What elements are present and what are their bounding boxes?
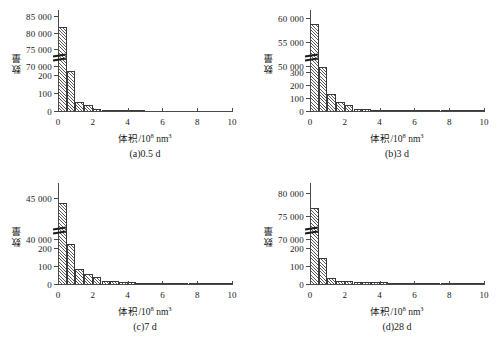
histogram-bar	[58, 203, 67, 285]
x-tick-label-b-4: 8	[447, 117, 452, 127]
y-tick-label-a-up-2-mark	[54, 33, 58, 34]
plot-area-b: 0246810010020030050 00055 00060 000	[310, 14, 484, 112]
y-tick-label-c-lo-0: 0	[47, 280, 52, 290]
x-axis-label-b: 体积/108 nm3	[310, 131, 484, 145]
y-tick-label-d-up-1-mark	[306, 216, 310, 217]
y-tick-label-c-up-0-mark	[54, 239, 58, 240]
figure-histogram-grid: 数量 0246810010020070 00075 00080 00085 00…	[0, 0, 504, 347]
x-tick-label-d-5: 10	[480, 290, 489, 300]
y-axis-label-d: 数量	[262, 225, 276, 247]
y-tick-label-b-up-2: 60 000	[278, 14, 304, 24]
x-tick-label-c-1: 2	[91, 290, 96, 300]
panel-caption-a: (a)0.5 d	[58, 148, 232, 159]
x-axis-label-d: 体积/108 nm3	[310, 304, 484, 318]
x-tick-a-1	[93, 108, 94, 112]
x-tick-label-c-2: 4	[125, 290, 130, 300]
y-axis-line-d	[310, 183, 311, 285]
x-axis-label-c: 体积/108 nm3	[58, 304, 232, 318]
x-axis-label-exponent: 8	[403, 305, 406, 312]
x-tick-b-4	[449, 108, 450, 112]
x-axis-line-d	[310, 284, 484, 285]
y-tick-label-d-lo-0: 0	[299, 280, 304, 290]
histogram-bar	[67, 244, 76, 285]
y-tick-label-a-lo-1-mark	[54, 93, 58, 94]
panel-b: 数量 0246810010020030050 00055 00060 000 体…	[252, 0, 504, 173]
x-tick-label-d-4: 8	[447, 290, 452, 300]
x-axis-line-c	[58, 284, 232, 285]
y-tick-label-a-lo-0: 0	[47, 107, 52, 117]
x-tick-label-d-0: 0	[308, 290, 313, 300]
x-axis-label-exponent: 8	[151, 305, 154, 312]
y-tick-label-b-lo-0: 0	[299, 107, 304, 117]
x-tick-label-b-0: 0	[308, 117, 313, 127]
panel-caption-d: (d)28 d	[310, 321, 484, 332]
x-tick-label-b-5: 10	[480, 117, 489, 127]
x-axis-label-text: 体积/10	[118, 307, 150, 317]
x-tick-label-a-5: 10	[228, 117, 237, 127]
x-axis-unit-exponent: 3	[168, 305, 171, 312]
x-axis-unit: nm	[408, 134, 420, 144]
x-axis-unit: nm	[156, 307, 168, 317]
x-tick-b-3	[414, 108, 415, 112]
x-tick-label-c-3: 6	[160, 290, 165, 300]
y-tick-label-b-up-1: 55 000	[278, 38, 304, 48]
histogram-bar	[67, 71, 76, 112]
y-tick-label-d-up-1: 75 000	[278, 212, 304, 222]
plot-area-a: 0246810010020070 00075 00080 00085 000	[58, 14, 232, 112]
x-tick-d-1	[345, 281, 346, 285]
x-tick-label-a-3: 6	[160, 117, 165, 127]
x-axis-label-exponent: 8	[151, 132, 154, 139]
y-tick-label-b-lo-3-mark	[306, 72, 310, 73]
y-axis-line-c	[58, 183, 59, 285]
x-tick-d-0	[310, 281, 311, 285]
x-tick-b-1	[345, 108, 346, 112]
y-axis-label-c: 数量	[10, 225, 24, 247]
x-tick-label-b-2: 4	[377, 117, 382, 127]
y-tick-label-c-up-1: 45 000	[26, 194, 52, 204]
x-axis-unit-exponent: 3	[420, 132, 423, 139]
x-tick-label-d-2: 4	[377, 290, 382, 300]
y-tick-label-b-up-0: 50 000	[278, 62, 304, 72]
y-tick-label-b-lo-2: 200	[290, 81, 304, 91]
x-tick-c-0	[58, 281, 59, 285]
plot-area-d: 0246810010020070 00075 00080 000	[310, 187, 484, 285]
x-axis-line-a	[58, 111, 232, 112]
y-tick-label-b-lo-0-mark	[306, 111, 310, 112]
x-tick-c-4	[197, 281, 198, 285]
x-tick-c-3	[162, 281, 163, 285]
x-tick-label-a-2: 4	[125, 117, 130, 127]
x-tick-d-5	[484, 281, 485, 285]
y-tick-label-c-up-0: 40 000	[26, 235, 52, 245]
y-tick-label-d-up-0-mark	[306, 239, 310, 240]
y-tick-label-b-lo-1-mark	[306, 98, 310, 99]
x-tick-a-3	[162, 108, 163, 112]
bars-c	[58, 187, 232, 285]
x-tick-label-b-3: 6	[412, 117, 417, 127]
x-tick-c-5	[232, 281, 233, 285]
x-tick-label-a-1: 2	[91, 117, 96, 127]
x-tick-b-5	[484, 108, 485, 112]
y-tick-label-a-up-2: 80 000	[26, 29, 52, 39]
x-axis-label-exponent: 8	[403, 132, 406, 139]
x-tick-b-2	[380, 108, 381, 112]
x-axis-line-b	[310, 111, 484, 112]
x-tick-a-0	[58, 108, 59, 112]
x-tick-b-0	[310, 108, 311, 112]
histogram-bar	[75, 269, 84, 285]
x-tick-c-2	[128, 281, 129, 285]
histogram-bar	[310, 24, 319, 112]
y-tick-label-d-lo-1: 100	[290, 262, 304, 272]
panel-c: 数量 0246810010020040 00045 000 体积/108 nm3…	[0, 173, 252, 346]
histogram-bar	[319, 67, 328, 112]
y-tick-label-b-up-0-mark	[306, 66, 310, 67]
y-tick-label-a-lo-2: 200	[38, 71, 52, 81]
histogram-bar	[327, 94, 336, 112]
panel-caption-c: (c)7 d	[58, 321, 232, 332]
y-tick-label-a-lo-1: 100	[38, 89, 52, 99]
x-tick-a-2	[128, 108, 129, 112]
panel-a: 数量 0246810010020070 00075 00080 00085 00…	[0, 0, 252, 173]
x-tick-label-d-1: 2	[343, 290, 348, 300]
y-axis-label-b: 数量	[262, 52, 276, 74]
y-tick-label-d-lo-0-mark	[306, 284, 310, 285]
x-tick-a-4	[197, 108, 198, 112]
